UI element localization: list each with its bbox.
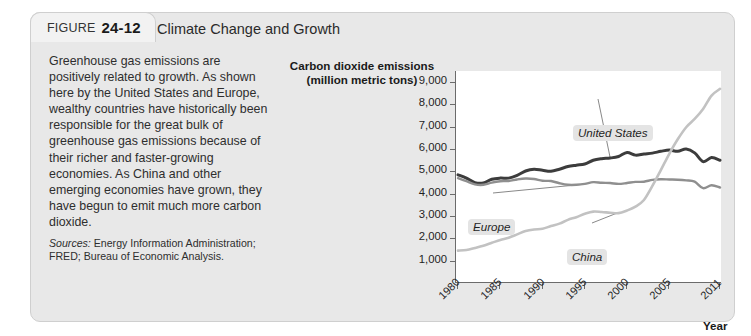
y-tick-mark — [450, 261, 455, 262]
y-tick-mark — [450, 82, 455, 83]
series-label-europe: Europe — [468, 219, 515, 235]
caption-text: Greenhouse gas emissions are positively … — [49, 53, 271, 230]
chart-area: Carbon dioxide emissions (million metric… — [274, 43, 736, 322]
y-tick-mark — [450, 171, 455, 172]
y-tick-label: 3,000 — [393, 208, 447, 220]
figure-body: Greenhouse gas emissions are positively … — [31, 43, 734, 322]
y-tick-mark — [450, 104, 455, 105]
figure-tab: FIGURE 24-12 — [30, 12, 156, 42]
y-tick-mark — [450, 216, 455, 217]
series-line-united-states — [458, 149, 720, 183]
caption-block: Greenhouse gas emissions are positively … — [49, 53, 271, 263]
x-axis-title: Year — [703, 319, 728, 332]
y-tick-label: 9,000 — [393, 74, 447, 86]
figure-label: FIGURE — [47, 21, 95, 35]
y-tick-mark — [450, 127, 455, 128]
y-tick-mark — [450, 149, 455, 150]
y-tick-label: 6,000 — [393, 141, 447, 153]
y-axis-title-line1: Carbon dioxide emissions — [282, 59, 442, 73]
y-tick-label: 7,000 — [393, 119, 447, 131]
figure-title: Climate Change and Growth — [157, 19, 340, 39]
y-tick-mark — [450, 194, 455, 195]
series-label-china: China — [567, 249, 607, 265]
sources-label: Sources: — [49, 237, 91, 249]
figure-number: 24-12 — [101, 19, 140, 36]
y-tick-label: 1,000 — [393, 253, 447, 265]
y-tick-mark — [450, 238, 455, 239]
y-tick-label: 5,000 — [393, 163, 447, 175]
series-label-united-states: United States — [573, 125, 653, 141]
y-tick-label: 4,000 — [393, 186, 447, 198]
figure-card: FIGURE 24-12 Climate Change and Growth G… — [30, 12, 735, 322]
y-tick-label: 8,000 — [393, 96, 447, 108]
sources-line: Sources: Energy Information Administrati… — [49, 237, 271, 263]
y-tick-label: 2,000 — [393, 230, 447, 242]
